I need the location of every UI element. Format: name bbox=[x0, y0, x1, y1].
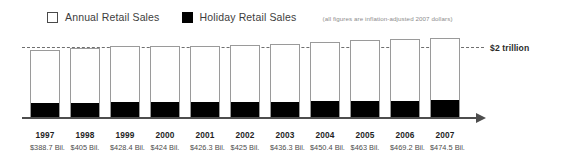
x-axis-tick: 2000$424 Bil. bbox=[150, 130, 180, 152]
bar-annual bbox=[430, 38, 460, 118]
x-axis-tick-year: 2006 bbox=[390, 130, 420, 140]
bar-holiday bbox=[271, 102, 299, 117]
bar-column bbox=[430, 34, 460, 118]
bar-annual bbox=[270, 44, 300, 118]
x-axis-tick-value: $405 Bil. bbox=[70, 143, 100, 152]
x-axis-tick-year: 1997 bbox=[30, 130, 60, 140]
chart-plot-area: $2 trillion 1997$388.7 Bil.1998$405 Bil.… bbox=[0, 0, 561, 160]
bar-group bbox=[30, 34, 460, 118]
x-axis-tick-value: $436.3 Bil. bbox=[270, 143, 300, 152]
bar-holiday bbox=[311, 101, 339, 117]
x-axis-tick-year: 1998 bbox=[70, 130, 100, 140]
x-axis-tick-value: $424 Bil. bbox=[150, 143, 180, 152]
x-axis-tick-year: 2005 bbox=[350, 130, 380, 140]
x-axis-tick-value: $474.5 Bil. bbox=[430, 143, 460, 152]
x-axis-tick-value: $388.7 Bil. bbox=[30, 143, 60, 152]
bar-annual bbox=[190, 46, 220, 118]
x-axis-tick: 2007$474.5 Bil. bbox=[430, 130, 460, 152]
x-axis-tick-year: 2002 bbox=[230, 130, 260, 140]
bar-annual bbox=[230, 45, 260, 118]
x-axis-arrow-icon bbox=[476, 113, 486, 123]
bar-column bbox=[390, 34, 420, 118]
x-axis-tick-year: 2003 bbox=[270, 130, 300, 140]
bar-column bbox=[150, 34, 180, 118]
bar-holiday bbox=[191, 102, 219, 117]
x-axis-tick: 2003$436.3 Bil. bbox=[270, 130, 300, 152]
x-axis-tick: 1998$405 Bil. bbox=[70, 130, 100, 152]
reference-line-label: $2 trillion bbox=[490, 43, 529, 53]
x-axis-tick-year: 2000 bbox=[150, 130, 180, 140]
x-axis-tick: 2001$426.3 Bil. bbox=[190, 130, 220, 152]
bar-holiday bbox=[431, 100, 459, 117]
x-axis-line bbox=[22, 117, 477, 119]
bar-annual bbox=[350, 40, 380, 118]
bar-holiday bbox=[111, 102, 139, 117]
bar-column bbox=[350, 34, 380, 118]
bar-annual bbox=[30, 50, 60, 118]
x-axis-tick: 1997$388.7 Bil. bbox=[30, 130, 60, 152]
bar-column bbox=[190, 34, 220, 118]
x-axis-tick: 2005$463 Bil. bbox=[350, 130, 380, 152]
bar-holiday bbox=[391, 101, 419, 117]
bar-holiday bbox=[151, 102, 179, 117]
bar-annual bbox=[110, 46, 140, 118]
x-axis-labels: 1997$388.7 Bil.1998$405 Bil.1999$428.4 B… bbox=[30, 130, 460, 152]
bar-annual bbox=[310, 42, 340, 118]
x-axis-tick-year: 2007 bbox=[430, 130, 460, 140]
x-axis-tick: 1999$428.4 Bil. bbox=[110, 130, 140, 152]
x-axis-tick-value: $426.3 Bil. bbox=[190, 143, 220, 152]
x-axis-tick-value: $469.2 Bil. bbox=[390, 143, 420, 152]
bar-holiday bbox=[231, 102, 259, 117]
bar-column bbox=[110, 34, 140, 118]
bar-column bbox=[270, 34, 300, 118]
bar-column bbox=[70, 34, 100, 118]
x-axis-tick: 2006$469.2 Bil. bbox=[390, 130, 420, 152]
x-axis-tick: 2004$450.4 Bil. bbox=[310, 130, 340, 152]
x-axis-tick: 2002$425 Bil. bbox=[230, 130, 260, 152]
bar-holiday bbox=[71, 103, 99, 117]
bar-annual bbox=[70, 48, 100, 118]
x-axis-tick-value: $425 Bil. bbox=[230, 143, 260, 152]
bar-annual bbox=[390, 39, 420, 118]
bar-holiday bbox=[31, 103, 59, 117]
bar-column bbox=[230, 34, 260, 118]
x-axis-tick-year: 1999 bbox=[110, 130, 140, 140]
bar-annual bbox=[150, 46, 180, 118]
x-axis-tick-year: 2004 bbox=[310, 130, 340, 140]
x-axis-tick-year: 2001 bbox=[190, 130, 220, 140]
x-axis-tick-value: $463 Bil. bbox=[350, 143, 380, 152]
x-axis-tick-value: $450.4 Bil. bbox=[310, 143, 340, 152]
bar-column bbox=[30, 34, 60, 118]
bar-holiday bbox=[351, 101, 379, 117]
bar-column bbox=[310, 34, 340, 118]
x-axis-tick-value: $428.4 Bil. bbox=[110, 143, 140, 152]
